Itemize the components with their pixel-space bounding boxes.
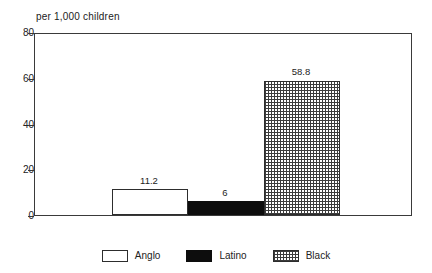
legend-swatch-icon — [273, 250, 299, 262]
bar-value-label: 11.2 — [111, 176, 187, 186]
bar-latino — [188, 201, 264, 215]
bar-value-label: 6 — [187, 188, 263, 198]
y-tick-mark — [28, 216, 34, 217]
legend-swatch-icon — [186, 250, 212, 262]
legend-item-latino[interactable]: Latino — [186, 250, 246, 262]
bar-anglo — [112, 189, 188, 215]
legend-swatch-icon — [102, 250, 128, 262]
legend-label: Latino — [219, 251, 246, 261]
legend-label: Black — [306, 251, 330, 261]
y-axis: 020406080 — [0, 0, 34, 273]
bar-value-label: 58.8 — [263, 67, 339, 77]
chart-legend: AngloLatinoBlack — [0, 246, 432, 266]
bar-chart-figure: per 1,000 children 020406080 11.2658.8 — [0, 0, 432, 273]
legend-item-anglo[interactable]: Anglo — [102, 250, 161, 262]
chart-title: per 1,000 children — [36, 11, 120, 22]
legend-label: Anglo — [135, 251, 161, 261]
bar-black — [264, 81, 340, 216]
legend-item-black[interactable]: Black — [273, 250, 330, 262]
